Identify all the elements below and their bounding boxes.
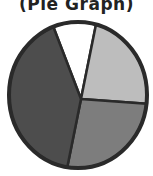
pie-chart — [0, 0, 153, 176]
